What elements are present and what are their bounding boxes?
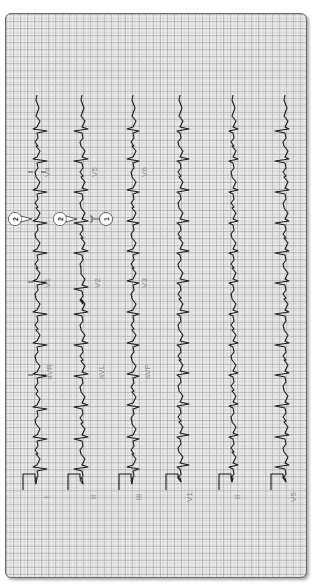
calibration-label-v1: V1 [185,492,194,502]
lead-label-v5: V5 [90,167,99,177]
callout-1: 1 [90,213,113,226]
lead-label-avf: aVF [143,365,152,380]
ecg-strip-2 [68,95,88,490]
ecg-strip-5 [219,95,238,490]
lead-label-v2: V2 [93,278,102,288]
lead-label-v6: V6 [140,167,149,177]
callout-number: 2 [57,217,64,221]
callout-pointer [21,216,32,222]
lead-label-avl: aVL [97,364,106,379]
calibration-label-v5: V5 [289,492,298,502]
callout-bracket [90,216,100,222]
callout-number: 2 [12,217,19,221]
calibration-label-ii: II [89,495,98,499]
ecg-strip-6 [271,95,289,490]
callout-2: 2 [54,213,78,226]
ecg-strip-1 [23,95,47,490]
callout-2: 2 [9,213,33,226]
lead-label-v1: V1 [43,278,52,288]
calibration-label-iii: III [134,494,143,501]
calibration-label-i: I [42,496,51,498]
ecg-strip-3 [119,95,139,490]
ecg-strip-4 [166,95,189,490]
lead-label-v3: V3 [140,278,149,288]
calibration-label-ii: II [233,495,242,499]
callout-pointer [66,216,77,222]
lead-label-v4: V4 [43,167,52,177]
lead-label-avr: aVR [45,364,54,380]
callout-number: 1 [103,217,110,221]
ecg-tracing: aVRaVLaVFV1V2V3V4V5V6IIIIIIV1IIV5221 [0,0,317,586]
